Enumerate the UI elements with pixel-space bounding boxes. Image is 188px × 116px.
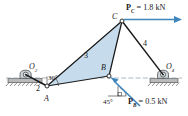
angle-label-30: 30° (48, 75, 58, 82)
link-label-2: 2 (36, 85, 40, 93)
joint-C (120, 19, 124, 23)
force-label-PB: PB = 0.5 kN (128, 98, 167, 108)
force-arrow-PC (124, 16, 182, 23)
link-label-4: 4 (143, 40, 147, 48)
joint-label-A: A (44, 95, 49, 103)
joint-label-C: C (112, 13, 117, 21)
joint-label-B: B (101, 64, 106, 72)
force-label-PC: PC = 1.8 kN (126, 4, 165, 14)
joint-label-O2: O2 (29, 63, 37, 74)
figure-canvas: O2 A B C O4 2 3 4 30° 45° PC = 1.8 kN PB… (0, 0, 188, 116)
angle-label-45: 45° (103, 99, 113, 106)
joint-label-O4: O4 (166, 63, 174, 74)
link-label-3: 3 (84, 52, 88, 60)
joint-A (45, 84, 49, 88)
